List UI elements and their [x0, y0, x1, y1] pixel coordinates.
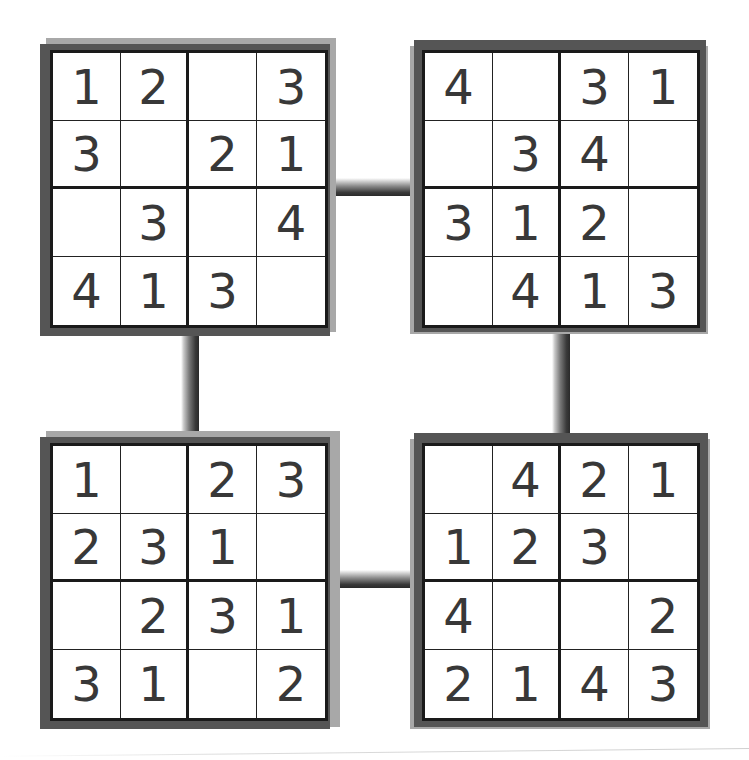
sudoku-cell-given: 1 [493, 650, 561, 718]
sudoku-cell-given: 1 [561, 257, 629, 325]
puzzle-bottom-right: 421123422143 [414, 435, 708, 729]
sudoku-cell-empty[interactable] [493, 53, 561, 121]
sudoku-cell-empty[interactable] [121, 121, 189, 189]
sudoku-cell-empty[interactable] [53, 582, 121, 650]
sudoku-cell-empty[interactable] [561, 582, 629, 650]
sudoku-cell-given: 4 [425, 53, 493, 121]
sudoku-cell-given: 2 [425, 650, 493, 718]
sudoku-cell-given: 2 [189, 121, 257, 189]
puzzle-top-left: 12332134413 [42, 42, 336, 336]
puzzle-bottom-left: 123231231312 [42, 435, 336, 729]
sudoku-cell-empty[interactable] [425, 121, 493, 189]
connector-top [334, 178, 422, 196]
sudoku-cell-given: 1 [189, 514, 257, 582]
sudoku-cell-empty[interactable] [629, 189, 697, 257]
sudoku-cell-given: 4 [493, 257, 561, 325]
sudoku-cell-empty[interactable] [257, 514, 325, 582]
sudoku-cell-empty[interactable] [425, 446, 493, 514]
page-edge-line [0, 748, 749, 757]
connector-right [552, 334, 570, 436]
sudoku-cell-given: 1 [493, 189, 561, 257]
sudoku-cell-given: 2 [189, 446, 257, 514]
sudoku-cell-given: 2 [53, 514, 121, 582]
sudoku-cell-given: 3 [53, 121, 121, 189]
sudoku-cell-given: 3 [121, 189, 189, 257]
sudoku-cell-given: 4 [561, 650, 629, 718]
sudoku-cell-given: 2 [121, 582, 189, 650]
sudoku-cell-empty[interactable] [121, 446, 189, 514]
sudoku-cell-given: 2 [257, 650, 325, 718]
sudoku-cell-given: 3 [561, 514, 629, 582]
sudoku-cell-given: 2 [629, 582, 697, 650]
sudoku-cell-given: 3 [189, 257, 257, 325]
sudoku-cell-given: 3 [425, 189, 493, 257]
sudoku-cell-empty[interactable] [189, 650, 257, 718]
sudoku-cell-given: 3 [257, 446, 325, 514]
sudoku-samurai-board: 12332134413 43134312413 123231231312 421… [0, 0, 749, 760]
sudoku-cell-given: 2 [561, 446, 629, 514]
sudoku-cell-given: 1 [121, 257, 189, 325]
sudoku-grid: 123231231312 [50, 443, 328, 721]
sudoku-cell-given: 3 [189, 582, 257, 650]
sudoku-cell-given: 4 [53, 257, 121, 325]
sudoku-cell-given: 3 [257, 53, 325, 121]
sudoku-cell-empty[interactable] [629, 121, 697, 189]
sudoku-cell-empty[interactable] [425, 257, 493, 325]
sudoku-cell-given: 4 [561, 121, 629, 189]
sudoku-cell-given: 1 [425, 514, 493, 582]
sudoku-cell-given: 1 [53, 446, 121, 514]
sudoku-grid: 43134312413 [422, 50, 700, 328]
sudoku-cell-given: 3 [629, 257, 697, 325]
sudoku-cell-given: 1 [53, 53, 121, 121]
sudoku-cell-given: 4 [493, 446, 561, 514]
sudoku-cell-given: 3 [53, 650, 121, 718]
sudoku-cell-given: 2 [121, 53, 189, 121]
sudoku-cell-given: 2 [493, 514, 561, 582]
sudoku-cell-given: 1 [121, 650, 189, 718]
sudoku-cell-given: 1 [257, 582, 325, 650]
connector-left [181, 334, 199, 436]
sudoku-cell-given: 3 [493, 121, 561, 189]
puzzle-top-right: 43134312413 [414, 42, 708, 336]
sudoku-cell-given: 4 [257, 189, 325, 257]
sudoku-cell-given: 3 [121, 514, 189, 582]
sudoku-cell-given: 1 [629, 446, 697, 514]
sudoku-cell-given: 3 [561, 53, 629, 121]
sudoku-cell-given: 1 [257, 121, 325, 189]
sudoku-cell-empty[interactable] [189, 53, 257, 121]
sudoku-grid: 421123422143 [422, 443, 700, 721]
sudoku-grid: 12332134413 [50, 50, 328, 328]
sudoku-cell-given: 1 [629, 53, 697, 121]
sudoku-cell-empty[interactable] [53, 189, 121, 257]
sudoku-cell-empty[interactable] [257, 257, 325, 325]
sudoku-cell-empty[interactable] [629, 514, 697, 582]
sudoku-cell-empty[interactable] [493, 582, 561, 650]
sudoku-cell-empty[interactable] [189, 189, 257, 257]
connector-bottom [334, 570, 422, 588]
sudoku-cell-given: 3 [629, 650, 697, 718]
sudoku-cell-given: 2 [561, 189, 629, 257]
sudoku-cell-given: 4 [425, 582, 493, 650]
